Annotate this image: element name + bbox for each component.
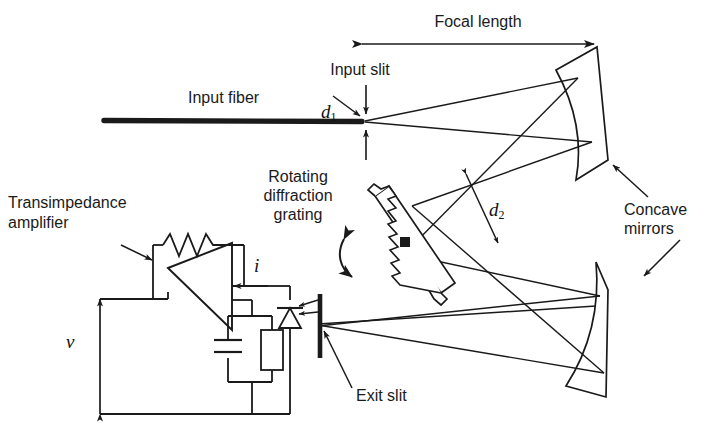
voltage-label: v <box>66 332 74 352</box>
concave-mirror-leader-upper <box>613 165 648 197</box>
load-resistor <box>261 330 283 370</box>
grating-label-line2: diffraction <box>238 186 358 205</box>
grating-rotation-arrow <box>340 239 352 277</box>
input-slit-label: Input slit <box>290 60 430 79</box>
ray-lower-mirror-to-exit-slit <box>318 296 604 373</box>
d2-label: d2 <box>470 180 505 245</box>
d1-subscript: 1 <box>331 110 337 124</box>
transimpedance-label-line2: amplifier <box>8 213 68 232</box>
concave-mirrors-label-line1: Concave <box>624 200 687 219</box>
output-branch-wire <box>232 300 252 316</box>
grating-label-line3: grating <box>238 205 358 224</box>
figure-canvas: Focal length Input slit Input fiber d1 d… <box>0 0 724 444</box>
input-fiber-label: Input fiber <box>188 88 259 107</box>
lower-concave-mirror <box>566 262 608 397</box>
focal-length-label: Focal length <box>398 12 558 31</box>
d1-leader-arrow <box>333 96 360 116</box>
exit-slit-label: Exit slit <box>356 386 407 405</box>
concave-mirrors-label-line2: mirrors <box>624 219 674 238</box>
d1-label: d1 <box>302 82 337 147</box>
opamp-triangle <box>168 243 232 330</box>
exit-slit-leader-arrow <box>324 331 352 388</box>
d2-base: d <box>489 199 499 220</box>
rotating-diffraction-grating <box>368 184 455 305</box>
concave-mirror-leader-lower <box>644 240 680 276</box>
d2-subscript: 2 <box>499 208 505 222</box>
feedback-capacitor <box>214 340 242 352</box>
current-label: i <box>254 256 259 276</box>
grating-label-line1: Rotating <box>238 167 358 186</box>
d1-base: d <box>321 101 331 122</box>
transimpedance-label-line1: Transimpedance <box>8 193 127 212</box>
upper-concave-mirror <box>556 47 608 180</box>
ray-slit-to-upper-mirror <box>365 78 592 142</box>
transimpedance-leader-arrow <box>121 245 152 260</box>
photodiode <box>268 286 318 336</box>
opamp-input-wire <box>100 292 168 299</box>
